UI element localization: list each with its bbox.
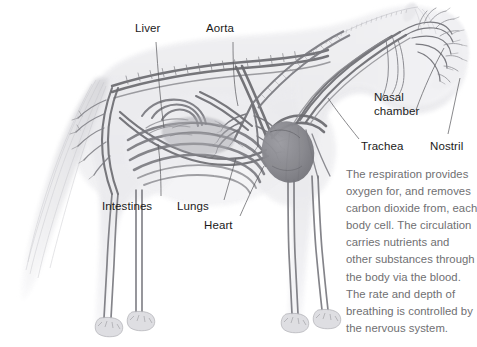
label-nasal-chamber: Nasal chamber — [374, 91, 436, 118]
label-trachea: Trachea — [361, 140, 403, 154]
description-line: the nervous system. — [346, 320, 476, 337]
description-line: other substances through — [346, 251, 476, 268]
label-liver: Liver — [135, 22, 160, 36]
label-lungs: Lungs — [177, 200, 209, 214]
hooves — [95, 309, 341, 336]
description-line: the body via the blood. — [346, 269, 476, 286]
label-nostril: Nostril — [430, 140, 463, 154]
label-heart: Heart — [204, 219, 233, 233]
description-line: carbon dioxide from, each — [346, 200, 476, 217]
description-line: The respiration provides — [346, 166, 476, 183]
description-line: carries nutrients and — [346, 234, 476, 251]
description-text: The respiration providesoxygen for, and … — [346, 166, 476, 337]
description-line: oxygen for, and removes — [346, 183, 476, 200]
description-line: breathing is controlled by — [346, 303, 476, 320]
description-line: body cell. The circulation — [346, 217, 476, 234]
description-line: The rate and depth of — [346, 286, 476, 303]
label-intestines: Intestines — [102, 200, 152, 214]
label-aorta: Aorta — [206, 22, 234, 36]
